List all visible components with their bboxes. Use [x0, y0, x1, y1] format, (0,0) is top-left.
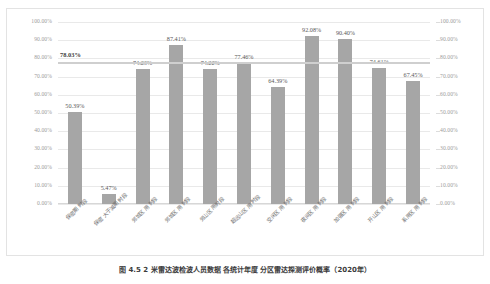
y-axis-tick-label-right: 100.00% — [440, 19, 461, 25]
bar-value-label: 64.39% — [268, 78, 287, 84]
bar-slot: 74.61% — [362, 22, 396, 204]
y-axis-tick-label-right: 80.00% — [440, 55, 458, 61]
bar-slot: 87.41% — [159, 22, 193, 204]
bar-value-label: 90.40% — [336, 30, 355, 36]
y-axis-tick-label-left: 70.00% — [34, 74, 52, 80]
y-axis-tickmark — [436, 149, 440, 150]
x-axis-label-slot: 保密 大于减期 时段 — [92, 206, 126, 254]
chart-figure: 0.00%10.00%20.00%30.00%40.00%50.00%60.00… — [0, 0, 490, 284]
y-axis-tickmark — [436, 95, 440, 96]
y-axis-tick-label-right: 50.00% — [440, 110, 458, 116]
plot-area: 50.39%5.47%74.23%87.41%74.22%77.46%64.39… — [58, 22, 430, 204]
bar-slot: 77.46% — [227, 22, 261, 204]
x-axis-label-slot: 郊城区 用 时段 — [126, 206, 160, 254]
y-axis-tick-label-right: 10.00% — [440, 183, 458, 189]
y-axis-tick-label-left: 0.00% — [37, 201, 52, 207]
y-axis-tick-label-right: 0.00% — [440, 201, 455, 207]
bar-slot: 92.08% — [295, 22, 329, 204]
x-axis-label-slot: 夜间区 用 时段 — [295, 206, 329, 254]
bar[interactable] — [338, 39, 352, 204]
y-axis-right: 0.00%10.00%20.00%30.00%40.00%50.00%60.00… — [436, 22, 484, 204]
y-axis-tick-label-left: 20.00% — [34, 165, 52, 171]
bar-slot: 74.22% — [193, 22, 227, 204]
y-axis-tick-label-left: 60.00% — [34, 92, 52, 98]
bar[interactable] — [68, 112, 82, 204]
y-axis-tickmark — [436, 40, 440, 41]
bar[interactable] — [237, 63, 251, 204]
y-axis-tick-label-left: 50.00% — [34, 110, 52, 116]
bar-slot: 74.23% — [126, 22, 160, 204]
bar[interactable] — [271, 87, 285, 204]
y-axis-tickmark — [436, 58, 440, 59]
x-axis-label-slot: 保密期 时段 — [58, 206, 92, 254]
bar-value-label: 77.46% — [234, 54, 253, 60]
bar[interactable] — [406, 81, 420, 204]
y-axis-tickmark — [436, 77, 440, 78]
y-axis-tick-label-right: 70.00% — [440, 74, 458, 80]
x-axis-label-slot: 加强区 用 时段 — [329, 206, 363, 254]
y-axis-tickmark — [436, 204, 440, 205]
y-axis-tickmark — [436, 113, 440, 114]
bar-value-label: 5.47% — [101, 185, 117, 191]
x-axis-label-slot: 系用区 用 时段 — [396, 206, 430, 254]
y-axis-tickmark — [436, 131, 440, 132]
x-axis-label-slot: 开山区 用 时段 — [362, 206, 396, 254]
y-axis-tick-label-left: 80.00% — [34, 55, 52, 61]
x-axis-label-slot: 超远山区 用 时段 — [227, 206, 261, 254]
bar-value-label: 67.45% — [404, 72, 423, 78]
x-axis-labels: 保密期 时段保密 大于减期 时段郊城区 用 时段郊城区 用 时段郊山区 用时段超… — [58, 206, 430, 254]
bar[interactable] — [169, 45, 183, 204]
bar-slot: 67.45% — [396, 22, 430, 204]
y-axis-tick-label-left: 40.00% — [34, 128, 52, 134]
y-axis-tick-label-left: 90.00% — [34, 37, 52, 43]
bar-value-label: 87.41% — [167, 36, 186, 42]
x-axis-label-slot: 空闲区 用 时段 — [261, 206, 295, 254]
bar-value-label: 50.39% — [65, 103, 84, 109]
y-axis-tickmark — [436, 168, 440, 169]
bar-slot: 64.39% — [261, 22, 295, 204]
y-axis-tickmark — [436, 22, 440, 23]
y-axis-tick-label-left: 10.00% — [34, 183, 52, 189]
y-axis-tick-label-right: 20.00% — [440, 165, 458, 171]
y-axis-tick-label-right: 90.00% — [440, 37, 458, 43]
x-axis-label-slot: 郊山区 用时段 — [193, 206, 227, 254]
bar[interactable] — [372, 68, 386, 204]
reference-line-label: 78.03% — [60, 52, 81, 58]
x-axis-label-slot: 郊城区 用 时段 — [159, 206, 193, 254]
reference-line — [58, 62, 430, 64]
y-axis-tick-label-left: 100.00% — [31, 19, 52, 25]
bar-slot: 5.47% — [92, 22, 126, 204]
bar[interactable] — [136, 69, 150, 204]
y-axis-tickmark — [436, 186, 440, 187]
y-axis-tick-label-right: 40.00% — [440, 128, 458, 134]
y-axis-tick-label-left: 30.00% — [34, 146, 52, 152]
bar-value-label: 92.08% — [302, 27, 321, 33]
y-axis-left: 0.00%10.00%20.00%30.00%40.00%50.00%60.00… — [8, 22, 54, 204]
y-axis-tick-label-right: 60.00% — [440, 92, 458, 98]
y-axis-tick-label-right: 30.00% — [440, 146, 458, 152]
bar-slot: 50.39% — [58, 22, 92, 204]
bar[interactable] — [203, 69, 217, 204]
figure-caption: 图 4.5 2 米雷达波检波人员数据 各统计年度 分区雷达探测评价概率（2020… — [0, 266, 490, 284]
bar-slot: 90.40% — [329, 22, 363, 204]
